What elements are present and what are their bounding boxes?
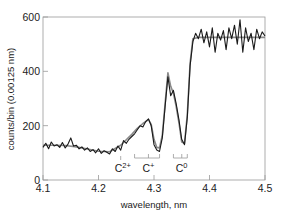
x-tick-label: 4.2 — [91, 182, 106, 194]
y-axis-label: counts/bin (0.00125 nm) — [5, 48, 16, 150]
x-tick-label: 4.1 — [36, 182, 51, 194]
ion-bracket — [173, 154, 187, 158]
spectrum-chart: 0200400600 4.14.24.34.44.5 C2+C+C0 wavel… — [0, 0, 283, 215]
y-tick-label: 400 — [22, 65, 40, 77]
ion-label-c2plus: C2+ — [115, 161, 132, 174]
x-tick-label: 4.5 — [258, 182, 273, 194]
series-layer — [43, 20, 265, 154]
plot-frame — [43, 17, 265, 180]
ion-label-cplus: C+ — [142, 161, 155, 174]
x-axis: 4.14.24.34.44.5 — [36, 175, 273, 194]
measured-data-line — [43, 20, 265, 154]
x-tick-label: 4.4 — [202, 182, 217, 194]
y-tick-label: 600 — [22, 11, 40, 23]
y-tick-label: 200 — [22, 120, 40, 132]
annotation-layer: C2+C+C0 — [115, 154, 188, 174]
model-fit-line — [43, 37, 265, 151]
ion-bracket — [135, 154, 160, 158]
y-axis: 0200400600 — [22, 11, 48, 186]
x-tick-label: 4.3 — [147, 182, 162, 194]
ion-label-c0: C0 — [176, 161, 188, 174]
x-axis-label: wavelength, nm — [120, 199, 188, 210]
